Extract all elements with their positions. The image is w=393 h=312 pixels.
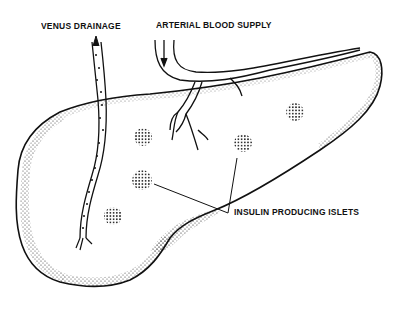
islet [132, 170, 152, 190]
arrow-down-icon [161, 58, 167, 66]
islet [104, 207, 122, 225]
pancreas-diagram [0, 0, 393, 312]
pancreas-body [16, 52, 382, 286]
islet [234, 134, 252, 152]
arterial-blood-supply-label: ARTERIAL BLOOD SUPPLY [156, 19, 272, 31]
insulin-producing-islets-label: INSULIN PRODUCING ISLETS [234, 206, 359, 218]
arrow-up-icon [93, 36, 99, 46]
islet [134, 128, 152, 146]
islet [286, 103, 304, 121]
venus-drainage-label: VENUS DRAINAGE [41, 20, 121, 32]
